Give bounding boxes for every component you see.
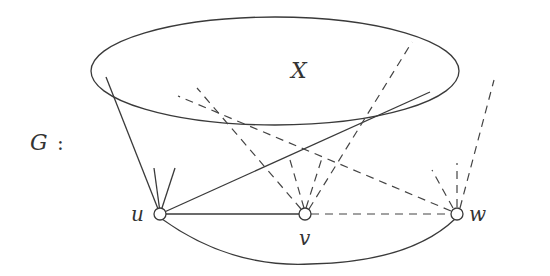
vertex-u	[154, 208, 166, 220]
graph-label-colon: :	[57, 131, 64, 155]
vertex-u-label: u	[131, 202, 144, 226]
vertex-w-label: w	[469, 202, 486, 226]
vertex-w	[451, 208, 463, 220]
edge-u-to-x-diagonal	[160, 92, 430, 214]
edge-stub-u-3	[162, 190, 209, 213]
edge-u-to-x-left	[106, 77, 160, 214]
edge-v-to-x-2	[290, 160, 304, 208]
edge-v-to-x-4	[309, 42, 412, 209]
vertex-v-label: v	[299, 226, 311, 250]
edge-w-to-x-right	[460, 80, 494, 208]
edge-stub-u-2	[161, 168, 175, 211]
set-x-ellipse	[91, 17, 459, 125]
edge-stub-w-1	[432, 170, 453, 208]
graph-label: G	[30, 130, 48, 155]
set-x-label: X	[289, 58, 308, 83]
edge-v-to-x-3	[306, 158, 322, 208]
graph-diagram: X G : u v w	[0, 0, 550, 276]
vertex-v	[299, 208, 311, 220]
